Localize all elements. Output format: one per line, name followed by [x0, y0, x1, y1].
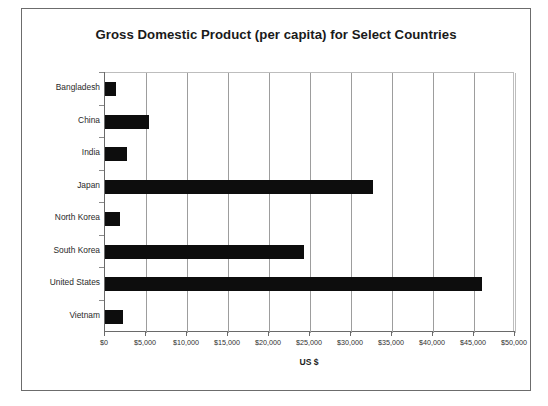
- gridline: [392, 73, 393, 333]
- gridline: [474, 73, 475, 333]
- bar: [105, 147, 127, 161]
- y-axis-tick: [99, 137, 104, 138]
- bar: [105, 277, 482, 291]
- x-axis-tick: [473, 332, 474, 336]
- gridline: [433, 73, 434, 333]
- gridline: [187, 73, 188, 333]
- category-label: Japan: [0, 180, 100, 190]
- bar: [105, 115, 149, 129]
- gridline: [146, 73, 147, 333]
- bar: [105, 82, 116, 96]
- x-axis-tick: [391, 332, 392, 336]
- y-axis-line: [104, 72, 105, 334]
- gridline: [515, 73, 516, 333]
- x-axis-tick: [104, 332, 105, 336]
- x-axis-tick: [432, 332, 433, 336]
- gridline: [351, 73, 352, 333]
- gridline: [310, 73, 311, 333]
- gridline: [228, 73, 229, 333]
- y-axis-tick: [99, 202, 104, 203]
- y-axis-tick: [99, 235, 104, 236]
- category-label: Bangladesh: [0, 82, 100, 92]
- category-label: United States: [0, 277, 100, 287]
- x-axis-tick: [350, 332, 351, 336]
- x-axis-title: US $: [104, 357, 514, 367]
- bar: [105, 310, 123, 324]
- y-axis-tick: [99, 105, 104, 106]
- plot-area: [104, 72, 514, 332]
- y-axis-tick: [99, 72, 104, 73]
- category-label: Vietnam: [0, 310, 100, 320]
- category-label: China: [0, 115, 100, 125]
- category-label: North Korea: [0, 212, 100, 222]
- y-axis-tick: [99, 267, 104, 268]
- bar: [105, 180, 373, 194]
- gridline: [269, 73, 270, 333]
- y-axis-tick: [99, 170, 104, 171]
- x-axis-tick-label: $50,000: [484, 338, 544, 347]
- x-axis-tick: [145, 332, 146, 336]
- bar: [105, 212, 120, 226]
- x-axis-tick: [309, 332, 310, 336]
- y-axis-tick: [99, 300, 104, 301]
- x-axis-tick: [227, 332, 228, 336]
- category-axis-labels: BangladeshChinaIndiaJapanNorth KoreaSout…: [0, 72, 100, 332]
- bar: [105, 245, 304, 259]
- chart-title: Gross Domestic Product (per capita) for …: [21, 27, 531, 42]
- x-axis-tick: [514, 332, 515, 336]
- category-label: South Korea: [0, 245, 100, 255]
- x-axis-tick: [186, 332, 187, 336]
- category-label: India: [0, 147, 100, 157]
- chart-figure: Gross Domestic Product (per capita) for …: [0, 0, 548, 406]
- x-axis-tick: [268, 332, 269, 336]
